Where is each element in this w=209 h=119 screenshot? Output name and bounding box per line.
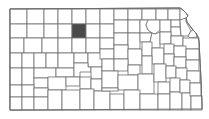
county-dickinson (128, 33, 140, 49)
county-gray (34, 78, 48, 88)
kansas-county-map: Kansas Rooks (0, 0, 209, 119)
county-stevens (22, 97, 34, 110)
county-smith (86, 9, 100, 24)
county-sherman (10, 24, 27, 38)
county-wichita (22, 53, 34, 68)
county-ness (58, 53, 74, 68)
county-atchison (171, 20, 180, 27)
county-clark (62, 90, 80, 110)
county-cowley (140, 94, 158, 110)
county-saline (114, 45, 128, 59)
county-gove (42, 38, 58, 53)
county-harvey (128, 65, 140, 75)
county-miami (186, 49, 199, 60)
county-lane (46, 53, 58, 68)
county-marion (128, 49, 142, 65)
county-crawford (190, 83, 201, 96)
county-osborne (86, 24, 100, 38)
county-wilson (170, 78, 180, 92)
county-morris (142, 42, 152, 56)
county-cloud (114, 20, 128, 33)
county-decatur (44, 9, 58, 24)
county-osage (164, 44, 174, 54)
map-svg (0, 0, 209, 119)
county-rawlins (27, 9, 44, 24)
county-seward (34, 97, 48, 110)
county-grant (22, 85, 34, 97)
county-comanche (80, 89, 94, 110)
county-ottawa (114, 33, 128, 45)
county-greeley (10, 53, 22, 68)
county-sedgwick (118, 75, 138, 90)
county-ellsworth (100, 49, 114, 59)
county-elk (158, 82, 170, 94)
county-cherokee (191, 96, 202, 110)
county-mitchell (100, 24, 114, 38)
county-rooks-highlighted (72, 24, 86, 38)
county-scott (34, 53, 46, 68)
county-meade (48, 90, 62, 110)
county-lincoln (100, 38, 114, 49)
county-wallace (10, 38, 24, 53)
county-reno (102, 71, 118, 88)
county-neosho (180, 80, 190, 93)
county-barber (94, 91, 110, 110)
county-morton (10, 97, 22, 110)
county-marshall (142, 9, 156, 20)
county-shawnee (160, 32, 171, 44)
county-ellis (72, 38, 86, 53)
county-rush (74, 53, 88, 63)
county-hodgeman (56, 68, 74, 77)
county-brown (168, 9, 180, 20)
county-harper (110, 94, 124, 110)
county-kingman (102, 88, 118, 91)
county-hamilton (10, 68, 22, 85)
county-edwards (66, 77, 80, 86)
county-russell (86, 38, 100, 53)
county-jewell (100, 9, 114, 24)
county-republic (114, 9, 128, 20)
county-lyon (152, 48, 164, 64)
county-woodson (166, 66, 176, 78)
county-finney (34, 68, 56, 78)
county-linn (186, 60, 199, 71)
county-franklin (174, 46, 186, 57)
county-sumner (124, 90, 140, 110)
county-cheyenne (10, 9, 27, 24)
county-montgomery (170, 92, 182, 110)
county-jefferson (171, 27, 181, 36)
county-kearny (22, 68, 34, 85)
county-stanton (10, 85, 22, 97)
county-haskell (34, 88, 48, 97)
county-nemaha (156, 9, 168, 20)
county-logan (24, 38, 42, 53)
county-graham (58, 24, 72, 38)
county-thomas (27, 24, 44, 38)
county-chautauqua (158, 94, 170, 110)
county-jackson (160, 20, 171, 32)
county-kiowa (80, 77, 91, 89)
county-norton (58, 9, 72, 24)
county-sheridan (44, 24, 58, 38)
county-rice (102, 59, 114, 71)
county-mcpherson (114, 59, 128, 71)
county-washington (128, 9, 142, 20)
county-clay (128, 20, 140, 33)
county-trego (58, 38, 72, 53)
county-ford (48, 77, 66, 90)
county-chase (142, 56, 152, 74)
county-phillips (72, 9, 86, 24)
county-greenwood (154, 64, 166, 82)
county-stafford (91, 67, 102, 79)
